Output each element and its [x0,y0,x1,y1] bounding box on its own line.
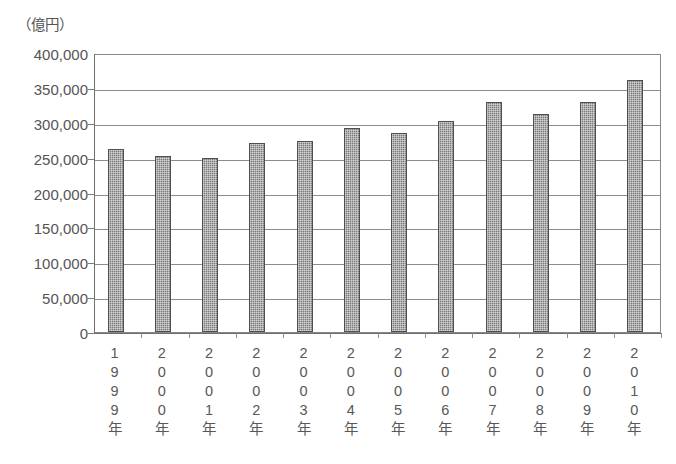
x-axis-tick-label: 2002年 [243,344,269,439]
bar [108,149,124,332]
gridline [95,229,660,230]
x-axis-tick-label: 2007年 [480,344,506,439]
x-axis-tick-label-char: 年 [338,420,364,439]
x-axis-tick-mark [283,333,284,338]
x-axis-tick-label-char: 0 [621,363,647,382]
x-axis-tick-mark [330,333,331,338]
x-axis-tick-label-char: 年 [621,420,647,439]
x-axis-tick-label: 2009年 [574,344,600,439]
bar [202,158,218,332]
x-axis-tick-mark [425,333,426,338]
x-axis-tick-label-char: 0 [291,382,317,401]
x-axis-tick-label-char: 3 [291,401,317,420]
y-axis-tick-label: 0 [2,325,88,342]
x-axis-tick-label-char: 0 [291,363,317,382]
bar [486,102,502,332]
x-axis-tick-mark [661,333,662,338]
x-axis-tick-label-char: 0 [196,363,222,382]
y-axis-tick-label: 100,000 [2,255,88,272]
bar [438,121,454,332]
x-axis-tick-mark [378,333,379,338]
x-axis-tick-label-char: 4 [338,401,364,420]
x-axis-tick-label-char: 年 [574,420,600,439]
y-axis-tick-mark [88,333,95,334]
x-axis-tick-label-char: 0 [385,363,411,382]
y-axis-tick-label: 250,000 [2,150,88,167]
x-axis-tick-mark [472,333,473,338]
y-axis-tick-label: 300,000 [2,115,88,132]
x-axis-tick-label-char: 1 [196,401,222,420]
y-axis-tick-mark [88,194,95,195]
y-axis-tick-mark [88,89,95,90]
gridline [95,90,660,91]
x-axis-tick-label-char: 0 [149,363,175,382]
x-axis-tick-label-char: 1 [102,344,128,363]
x-axis-tick-label-char: 9 [574,401,600,420]
gridline [95,125,660,126]
y-axis-tick-label: 50,000 [2,290,88,307]
x-axis-tick-mark [519,333,520,338]
x-axis-tick-label-char: 0 [574,363,600,382]
x-axis-tick-label-char: 年 [527,420,553,439]
x-axis-tick-label-char: 1 [621,382,647,401]
plot-area [94,54,661,333]
x-axis-tick-label-char: 年 [291,420,317,439]
y-axis-tick-mark [88,124,95,125]
x-axis-tick-label-char: 0 [243,382,269,401]
x-axis-tick-label: 2001年 [196,344,222,439]
x-axis-tick-label-char: 0 [621,401,647,420]
x-axis-tick-label-char: 2 [432,344,458,363]
y-axis-labels: 400,000350,000300,000250,000200,000150,0… [0,0,88,464]
x-axis-tick-label-char: 0 [243,363,269,382]
x-axis-tick-label-char: 0 [338,382,364,401]
x-axis-tick-mark [141,333,142,338]
y-axis-tick-label: 200,000 [2,185,88,202]
x-axis-tick-label-char: 2 [196,344,222,363]
x-axis-tick-label-char: 年 [432,420,458,439]
bar [627,80,643,332]
x-axis-tick-label-char: 0 [527,363,553,382]
bar [249,143,265,332]
x-axis-tick-label-char: 0 [149,401,175,420]
x-axis-tick-label-char: 2 [527,344,553,363]
gridline [95,264,660,265]
x-axis-tick-label-char: 9 [102,382,128,401]
x-axis-tick-label-char: 0 [338,363,364,382]
y-axis-tick-mark [88,263,95,264]
x-axis-tick-label-char: 2 [149,344,175,363]
bar [533,114,549,332]
y-axis-tick-mark [88,228,95,229]
x-axis-tick-label: 2003年 [291,344,317,439]
x-axis-tick-label-char: 2 [574,344,600,363]
x-axis-tick-label: 2000年 [149,344,175,439]
x-axis-tick-label-char: 2 [291,344,317,363]
x-axis-tick-label-char: 0 [527,382,553,401]
x-axis-tick-label-char: 年 [196,420,222,439]
x-axis-tick-mark [567,333,568,338]
x-axis-tick-label-char: 年 [149,420,175,439]
bar [580,102,596,332]
x-axis-tick-label-char: 0 [385,382,411,401]
y-axis-tick-mark [88,298,95,299]
x-axis-tick-label-char: 9 [102,401,128,420]
x-axis-tick-label-char: 0 [480,382,506,401]
x-axis-tick-label-char: 6 [432,401,458,420]
x-axis-tick-label-char: 7 [480,401,506,420]
x-axis-tick-label-char: 0 [574,382,600,401]
x-axis-tick-label-char: 2 [621,344,647,363]
bar [155,156,171,332]
x-axis-tick-label-char: 年 [385,420,411,439]
x-axis-tick-label-char: 0 [432,363,458,382]
bar [391,133,407,332]
x-axis-tick-label: 2008年 [527,344,553,439]
x-axis-tick-label-char: 2 [243,401,269,420]
gridline [95,299,660,300]
x-axis-tick-label-char: 5 [385,401,411,420]
bar-chart: （億円） 400,000350,000300,000250,000200,000… [0,0,676,464]
x-axis-tick-label-char: 9 [102,363,128,382]
x-axis-tick-label: 2004年 [338,344,364,439]
y-axis-tick-label: 350,000 [2,80,88,97]
y-axis-tick-label: 150,000 [2,220,88,237]
x-axis-tick-label-char: 0 [149,382,175,401]
x-axis-tick-label: 1999年 [102,344,128,439]
